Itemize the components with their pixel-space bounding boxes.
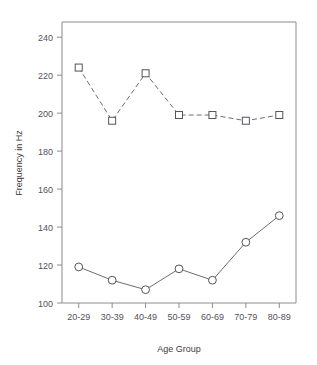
data-point-marker — [276, 112, 283, 119]
y-tick-label: 100 — [38, 299, 53, 309]
y-tick-label: 220 — [38, 71, 53, 81]
data-point-marker — [209, 276, 217, 284]
data-point-marker — [275, 212, 283, 220]
line-chart: 100120140160180200220240 20-2930-3940-49… — [0, 0, 317, 365]
figure-container: 100120140160180200220240 20-2930-3940-49… — [0, 0, 317, 365]
data-point-marker — [75, 263, 83, 271]
y-tick-label: 200 — [38, 109, 53, 119]
data-point-marker — [142, 286, 150, 294]
data-point-marker — [75, 64, 82, 71]
x-tick-label: 40-49 — [134, 312, 157, 322]
data-point-marker — [109, 117, 116, 124]
data-point-marker — [242, 238, 250, 246]
y-tick-label: 160 — [38, 185, 53, 195]
data-point-marker — [108, 276, 116, 284]
data-point-marker — [175, 265, 183, 273]
x-tick-label: 30-39 — [101, 312, 124, 322]
x-tick-label: 70-79 — [234, 312, 257, 322]
y-tick-label: 240 — [38, 33, 53, 43]
y-tick-label: 180 — [38, 147, 53, 157]
y-axis-title: Frequency in Hz — [14, 130, 24, 196]
x-tick-label: 60-69 — [201, 312, 224, 322]
x-tick-label: 80-89 — [268, 312, 291, 322]
y-tick-label: 140 — [38, 223, 53, 233]
chart-background — [0, 0, 317, 365]
data-point-marker — [209, 112, 216, 119]
x-axis-title: Age Group — [157, 344, 201, 354]
data-point-marker — [142, 70, 149, 77]
data-point-marker — [176, 112, 183, 119]
x-tick-label: 50-59 — [167, 312, 190, 322]
x-tick-label: 20-29 — [67, 312, 90, 322]
y-tick-label: 120 — [38, 261, 53, 271]
data-point-marker — [242, 117, 249, 124]
